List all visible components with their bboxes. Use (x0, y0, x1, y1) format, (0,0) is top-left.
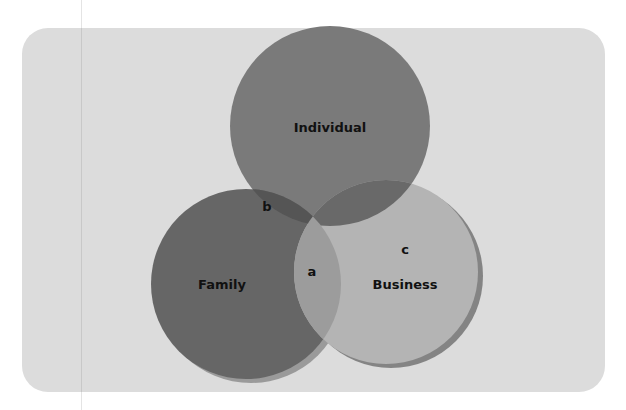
business-label: Business (373, 277, 438, 292)
venn-diagram: Individual Family Business a b c (0, 0, 626, 410)
individual-label: Individual (294, 120, 367, 135)
region-b-label: b (262, 199, 271, 214)
region-a-label: a (308, 264, 317, 279)
family-label: Family (198, 277, 246, 292)
region-c-label: c (401, 242, 409, 257)
